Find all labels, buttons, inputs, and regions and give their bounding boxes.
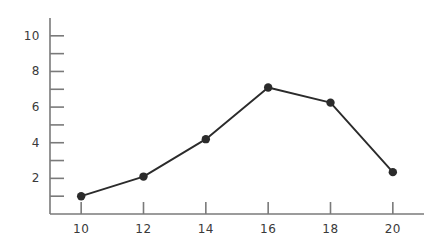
y-axis-tick-label: 10 xyxy=(0,29,40,43)
data-point-marker xyxy=(389,168,397,176)
x-axis-tick-label: 12 xyxy=(135,222,151,236)
data-point-marker xyxy=(77,192,85,200)
data-point-marker xyxy=(139,172,147,180)
x-axis-tick-label: 14 xyxy=(198,222,214,236)
y-axis-tick-label: 8 xyxy=(0,64,40,78)
y-axis-ticks xyxy=(50,36,64,196)
data-point-marker xyxy=(202,135,210,143)
x-axis-tick-label: 16 xyxy=(260,222,276,236)
y-axis-tick-label: 6 xyxy=(0,100,40,114)
y-axis-tick-label: 4 xyxy=(0,136,40,150)
data-point-marker xyxy=(264,83,272,91)
line-chart: 246810 101214161820 xyxy=(0,0,436,246)
y-axis-tick-label: 2 xyxy=(0,171,40,185)
x-axis-ticks xyxy=(81,202,393,214)
x-axis-tick-label: 10 xyxy=(73,222,89,236)
chart-plot-area xyxy=(0,0,436,246)
data-point-marker xyxy=(326,98,334,106)
x-axis-tick-label: 20 xyxy=(385,222,401,236)
data-line-series-0 xyxy=(81,87,393,196)
x-axis-tick-label: 18 xyxy=(322,222,338,236)
